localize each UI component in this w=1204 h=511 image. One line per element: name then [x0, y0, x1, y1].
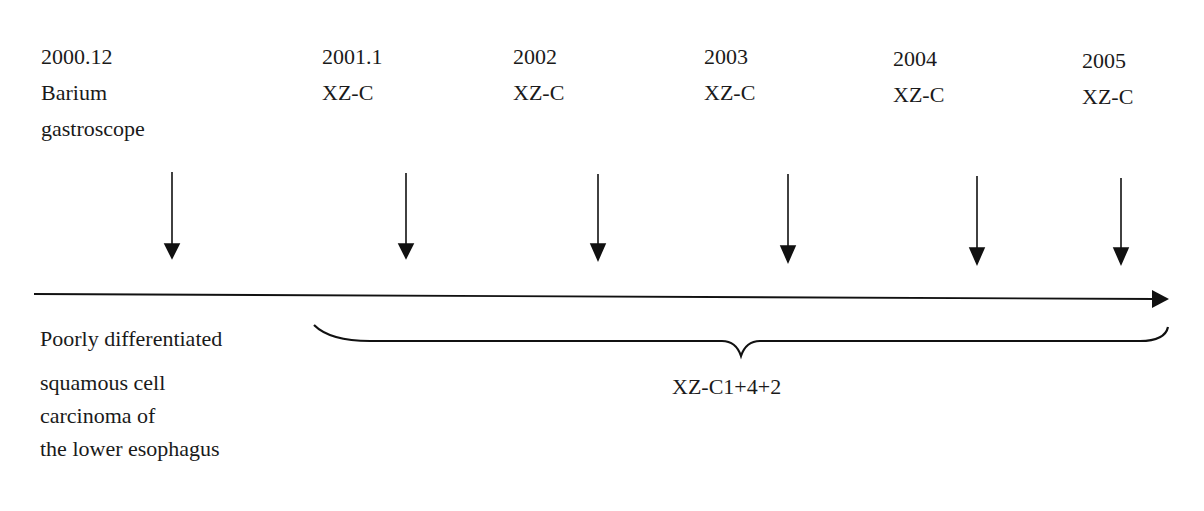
event-date: 2004 [893, 44, 944, 74]
event-arrows [165, 172, 1128, 264]
event-2003: 2003 XZ-C [704, 42, 755, 108]
event-2005: 2005 XZ-C [1082, 46, 1133, 112]
event-date: 2002 [513, 42, 564, 72]
timeline-axis [34, 290, 1169, 308]
treatment-label: XZ-C1+4+2 [672, 374, 781, 400]
event-desc: XZ-C [322, 78, 383, 108]
curly-brace [314, 325, 1168, 356]
event-desc: XZ-C [1082, 82, 1133, 112]
event-2004: 2004 XZ-C [893, 44, 944, 110]
event-2001-1: 2001.1 XZ-C [322, 42, 383, 108]
event-desc: Barium [41, 78, 145, 108]
event-desc: XZ-C [704, 78, 755, 108]
event-desc-2: gastroscope [41, 114, 145, 144]
event-date: 2005 [1082, 46, 1133, 76]
event-2000-12: 2000.12 Barium gastroscope [41, 42, 145, 144]
diagnosis-line: Poorly differentiated [40, 324, 222, 368]
diagnosis-line: squamous cell [40, 368, 222, 401]
event-date: 2003 [704, 42, 755, 72]
event-desc: XZ-C [513, 78, 564, 108]
diagnosis-line: the lower esophagus [40, 434, 222, 467]
event-date: 2001.1 [322, 42, 383, 72]
diagnosis-note: Poorly differentiated squamous cell carc… [40, 324, 222, 467]
event-2002: 2002 XZ-C [513, 42, 564, 108]
event-date: 2000.12 [41, 42, 145, 72]
event-desc: XZ-C [893, 80, 944, 110]
diagnosis-line: carcinoma of [40, 401, 222, 434]
